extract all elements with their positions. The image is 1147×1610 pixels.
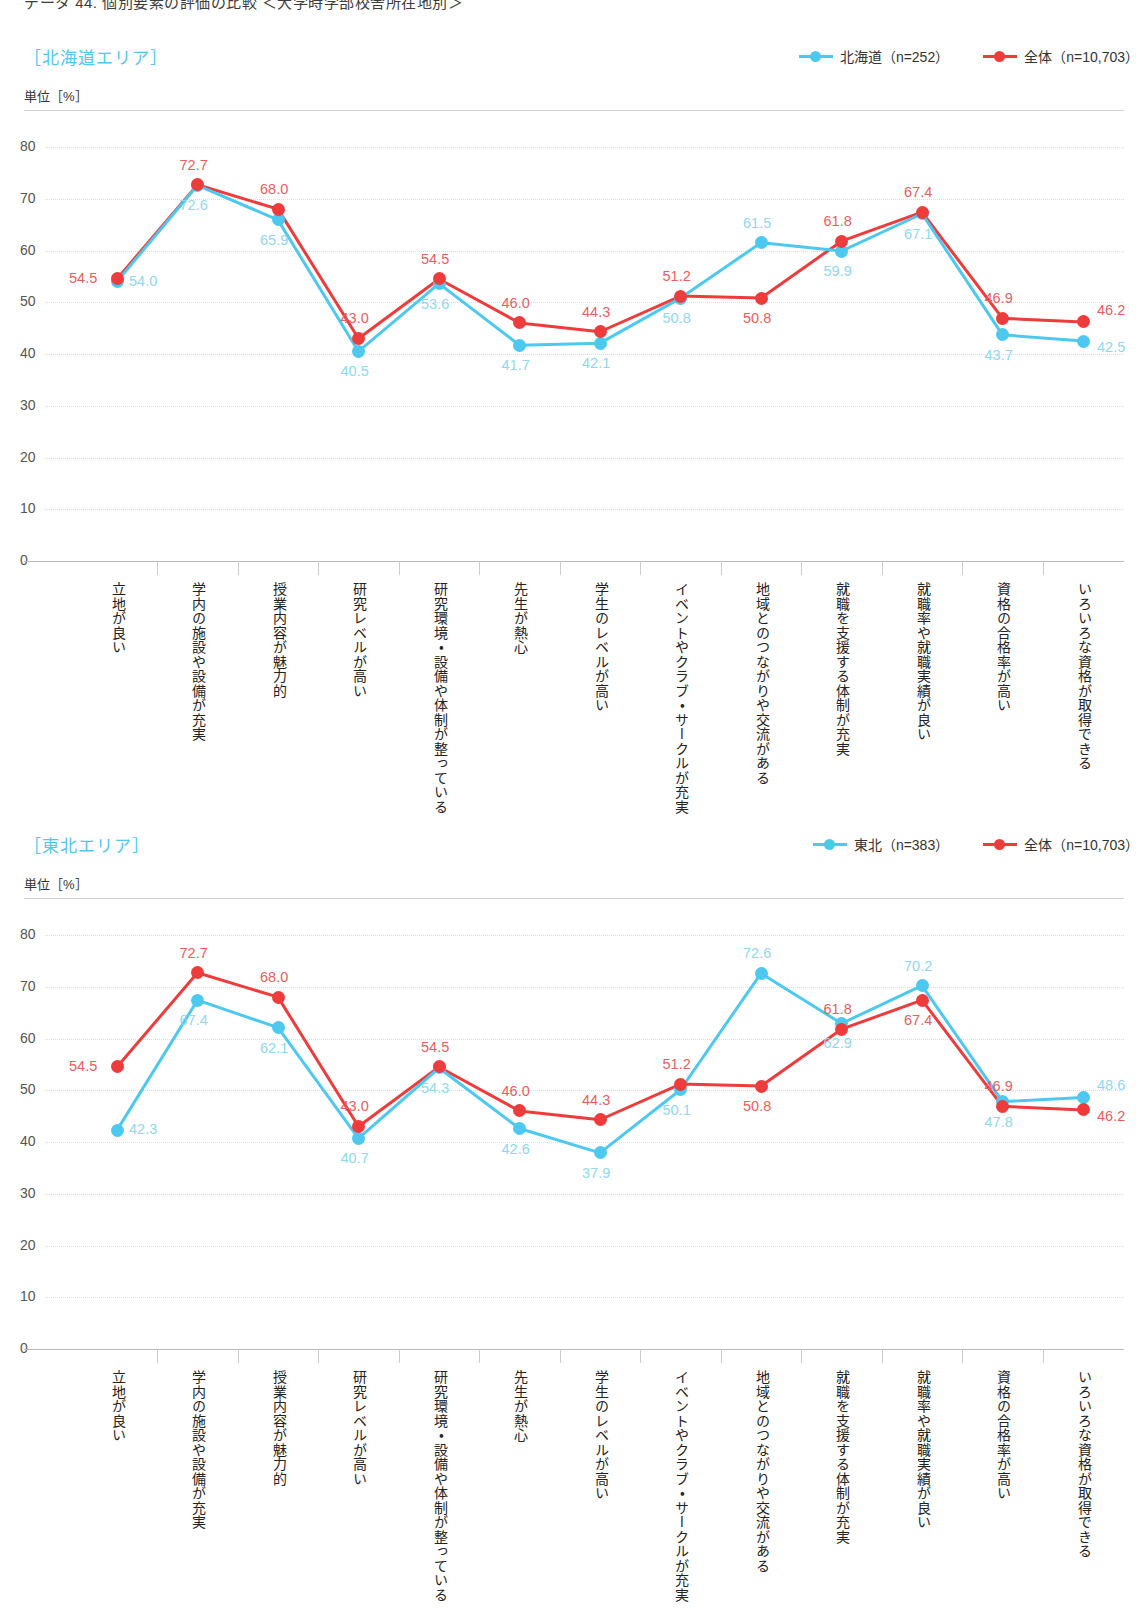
data-label: 48.6 [1097,1077,1125,1093]
legend-marker-area-icon [799,50,833,62]
data-label: 72.7 [180,157,208,173]
series-lines [0,898,1147,1358]
category-label: 就職を支援する体制が充実 [834,1370,851,1544]
data-point [433,1060,446,1073]
data-point [111,1124,124,1137]
data-label: 50.1 [663,1102,691,1118]
data-label: 50.8 [663,310,691,326]
data-label: 59.9 [824,263,852,279]
category-label: 立地が良い [109,582,126,655]
chart-legend: 北海道（n=252） 全体（n=10,703） [799,46,1139,66]
category-label: イベントやクラブ・サークルが充実 [673,1370,690,1602]
data-point [674,1078,687,1091]
legend-label-area: 北海道（n=252） [840,46,949,66]
data-label: 70.2 [904,958,932,974]
data-label: 46.0 [502,295,530,311]
series-lines [0,110,1147,570]
data-point [1077,335,1090,348]
data-label: 47.8 [985,1114,1013,1130]
category-axis-labels: 立地が良い学内の施設や設備が充実授業内容が魅力的研究レベルが高い研究環境・設備や… [0,582,1147,852]
data-point [352,1120,365,1133]
data-label: 42.3 [129,1121,157,1137]
data-label: 62.1 [260,1040,288,1056]
data-point [594,325,607,338]
data-point [272,991,285,1004]
data-point [996,1100,1009,1113]
category-label: 研究環境・設備や体制が整っている [431,582,448,814]
data-point [755,967,768,980]
category-label: 就職率や就職実績が良い [914,1370,931,1530]
data-point [352,1132,365,1145]
data-label: 51.2 [663,1056,691,1072]
unit-label: 単位［%］ [24,874,88,893]
data-point [916,994,929,1007]
data-label: 43.0 [341,310,369,326]
unit-label: 単位［%］ [24,86,88,105]
data-label: 46.9 [985,1078,1013,1094]
legend-label-total: 全体（n=10,703） [1024,46,1139,66]
data-label: 53.6 [421,296,449,312]
data-label: 44.3 [582,304,610,320]
data-point [1077,315,1090,328]
data-label: 72.6 [180,197,208,213]
data-label: 67.4 [904,184,932,200]
data-point [1077,1103,1090,1116]
data-point [835,1023,848,1036]
category-label: 授業内容が魅力的 [270,582,287,698]
data-label: 65.9 [260,232,288,248]
data-label: 46.2 [1097,1108,1125,1124]
data-point [755,1080,768,1093]
legend-marker-total-icon [983,838,1017,850]
data-point [1077,1091,1090,1104]
data-label: 37.9 [582,1165,610,1181]
data-label: 54.0 [129,273,157,289]
category-label: 就職を支援する体制が充実 [834,582,851,756]
category-label: 地域とのつながりや交流がある [753,582,770,785]
data-point [835,235,848,248]
data-label: 54.3 [421,1080,449,1096]
legend-item-area: 北海道（n=252） [799,46,949,66]
category-label: 資格の合格率が高い [995,582,1012,713]
data-label: 41.7 [502,357,530,373]
category-label: 学生のレベルが高い [592,1370,609,1501]
data-point [755,236,768,249]
data-point [594,1113,607,1126]
data-label: 50.8 [743,310,771,326]
data-point [433,272,446,285]
category-label: イベントやクラブ・サークルが充実 [673,582,690,814]
plot-area: 0102030405060708042.367.462.140.754.342.… [0,898,1147,1358]
data-label: 51.2 [663,268,691,284]
category-label: 研究環境・設備や体制が整っている [431,1370,448,1602]
category-label: 研究レベルが高い [351,582,368,698]
category-label: 授業内容が魅力的 [270,1370,287,1486]
category-label: 学内の施設や設備が充実 [190,582,207,742]
data-label: 67.4 [180,1012,208,1028]
data-label: 67.4 [904,1012,932,1028]
data-point [111,1060,124,1073]
data-point [594,337,607,350]
category-label: 先生が熱心 [512,1370,529,1443]
data-label: 54.5 [421,251,449,267]
legend-item-total: 全体（n=10,703） [983,834,1139,854]
data-point [272,203,285,216]
area-title: ［東北エリア］ [24,832,150,857]
data-label: 46.9 [985,290,1013,306]
category-label: いろいろな資格が取得できる [1075,582,1092,771]
data-label: 72.7 [180,945,208,961]
data-label: 54.5 [421,1039,449,1055]
category-label: 研究レベルが高い [351,1370,368,1486]
data-point [916,206,929,219]
data-point [996,312,1009,325]
data-label: 44.3 [582,1092,610,1108]
category-label: 資格の合格率が高い [995,1370,1012,1501]
page-title: データ 44. 個別要素の評価の比較 ＜大学時学部校舎所在地別＞ [24,0,463,12]
data-label: 67.1 [904,226,932,242]
data-label: 50.8 [743,1098,771,1114]
category-label: 立地が良い [109,1370,126,1443]
data-label: 40.5 [341,363,369,379]
legend-item-area: 東北（n=383） [813,834,949,854]
category-label: 地域とのつながりや交流がある [753,1370,770,1573]
legend-marker-total-icon [983,50,1017,62]
category-label: 先生が熱心 [512,582,529,655]
data-label: 42.5 [1097,339,1125,355]
